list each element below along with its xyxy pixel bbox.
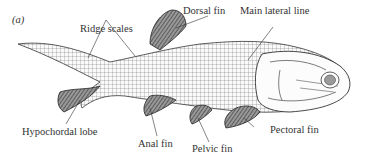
label-hypochordal-lobe: Hypochordal lobe — [22, 127, 98, 138]
anal-fin-shape — [144, 95, 176, 116]
label-anal-fin: Anal fin — [138, 139, 173, 150]
dorsal-fin-shape — [150, 10, 186, 50]
pelvic-fin-shape — [190, 105, 212, 124]
panel-label: (a) — [12, 15, 24, 26]
label-pelvic-fin: Pelvic fin — [192, 144, 233, 155]
label-main-lateral-line: Main lateral line — [240, 6, 309, 17]
label-pectoral-fin: Pectoral fin — [270, 125, 319, 136]
label-ridge-scales: Ridge scales — [80, 24, 133, 35]
label-dorsal-fin: Dorsal fin — [183, 6, 225, 17]
